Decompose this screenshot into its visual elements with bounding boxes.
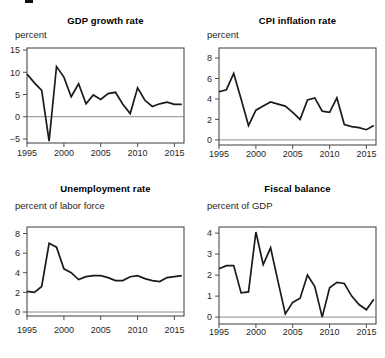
fiscal-balance-chart: 0123419952000200520102015 bbox=[192, 223, 384, 345]
panel-gdp-growth-rate: GDP growth rate percent −505101519952000… bbox=[0, 0, 192, 182]
panel-fiscal-balance: Fiscal balance percent of GDP 0123419952… bbox=[192, 176, 384, 358]
svg-text:15: 15 bbox=[10, 45, 20, 55]
svg-text:2: 2 bbox=[207, 115, 212, 125]
cpi-inflation-rate-chart: 0246819952000200520102015 bbox=[192, 44, 384, 166]
svg-text:4: 4 bbox=[207, 228, 212, 238]
svg-text:2005: 2005 bbox=[91, 148, 111, 158]
svg-text:2000: 2000 bbox=[54, 325, 74, 335]
svg-text:2: 2 bbox=[207, 270, 212, 280]
y-axis-unit-label: percent of labor force bbox=[15, 200, 105, 211]
unemployment-rate-chart: 0246819952000200520102015 bbox=[0, 223, 192, 345]
svg-text:0: 0 bbox=[207, 312, 212, 322]
svg-text:2015: 2015 bbox=[164, 325, 184, 335]
svg-text:2000: 2000 bbox=[246, 327, 266, 337]
gdp-growth-rate-chart: −505101519952000200520102015 bbox=[0, 44, 192, 166]
svg-text:2015: 2015 bbox=[356, 327, 376, 337]
svg-text:2: 2 bbox=[15, 288, 20, 298]
chart-title: CPI inflation rate bbox=[219, 15, 376, 26]
chart-title: Unemployment rate bbox=[27, 183, 184, 194]
y-axis-unit-label: percent bbox=[15, 29, 47, 40]
panel-unemployment-rate: Unemployment rate percent of labor force… bbox=[0, 176, 192, 358]
svg-text:1995: 1995 bbox=[209, 327, 229, 337]
svg-text:1995: 1995 bbox=[17, 148, 37, 158]
svg-text:5: 5 bbox=[15, 90, 20, 100]
svg-text:4: 4 bbox=[15, 268, 20, 278]
svg-text:8: 8 bbox=[15, 229, 20, 239]
svg-text:2010: 2010 bbox=[320, 149, 340, 159]
chart-title: GDP growth rate bbox=[27, 15, 184, 26]
svg-text:2010: 2010 bbox=[128, 148, 148, 158]
svg-text:3: 3 bbox=[207, 249, 212, 259]
y-axis-unit-label: percent bbox=[207, 29, 239, 40]
svg-text:4: 4 bbox=[207, 94, 212, 104]
svg-text:2005: 2005 bbox=[91, 325, 111, 335]
svg-text:0: 0 bbox=[15, 112, 20, 122]
svg-text:2015: 2015 bbox=[356, 149, 376, 159]
svg-text:2010: 2010 bbox=[128, 325, 148, 335]
panel-cpi-inflation-rate: CPI inflation rate percent 0246819952000… bbox=[192, 0, 384, 182]
svg-text:6: 6 bbox=[207, 74, 212, 84]
svg-text:1995: 1995 bbox=[17, 325, 37, 335]
figure-container: GDP growth rate percent −505101519952000… bbox=[0, 0, 385, 358]
svg-text:1: 1 bbox=[207, 291, 212, 301]
svg-text:6: 6 bbox=[15, 248, 20, 258]
chart-title: Fiscal balance bbox=[219, 183, 376, 194]
svg-text:10: 10 bbox=[10, 68, 20, 78]
svg-text:2000: 2000 bbox=[54, 148, 74, 158]
svg-text:2015: 2015 bbox=[164, 148, 184, 158]
svg-text:1995: 1995 bbox=[209, 149, 229, 159]
svg-text:0: 0 bbox=[15, 307, 20, 317]
svg-text:2010: 2010 bbox=[320, 327, 340, 337]
svg-text:0: 0 bbox=[207, 135, 212, 145]
y-axis-unit-label: percent of GDP bbox=[207, 200, 272, 211]
svg-text:2005: 2005 bbox=[283, 327, 303, 337]
svg-text:2000: 2000 bbox=[246, 149, 266, 159]
svg-text:2005: 2005 bbox=[283, 149, 303, 159]
svg-text:8: 8 bbox=[207, 53, 212, 63]
svg-text:−5: −5 bbox=[10, 134, 20, 144]
